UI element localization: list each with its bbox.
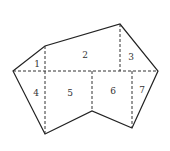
region-label: 6 xyxy=(110,86,116,96)
region-labels: 1234567 xyxy=(33,50,145,98)
region-label: 1 xyxy=(34,59,40,69)
region-label: 2 xyxy=(82,50,88,60)
region-label: 7 xyxy=(139,85,145,95)
partition-diagram: 1234567 xyxy=(0,0,170,151)
region-label: 3 xyxy=(128,52,134,62)
polygon-outline xyxy=(13,24,158,134)
region-label: 4 xyxy=(33,88,39,98)
region-label: 5 xyxy=(67,88,73,98)
